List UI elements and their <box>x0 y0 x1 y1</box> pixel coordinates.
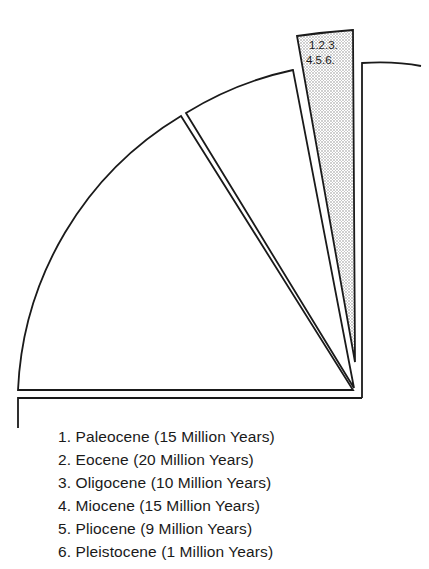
legend-item-oligocene: 3. Oligocene (10 Million Years) <box>58 471 275 494</box>
shaded-wedge-label-line2: 4.5.6. <box>306 54 335 66</box>
legend-item-miocene: 4. Miocene (15 Million Years) <box>58 494 275 517</box>
shaded-wedge-label-line1: 1.2.3. <box>309 39 338 51</box>
epoch-legend: 1. Paleocene (15 Million Years) 2. Eocen… <box>58 425 275 563</box>
legend-item-pliocene: 5. Pliocene (9 Million Years) <box>58 517 275 540</box>
legend-item-pleistocene: 6. Pleistocene (1 Million Years) <box>58 540 275 563</box>
legend-item-paleocene: 1. Paleocene (15 Million Years) <box>58 425 275 448</box>
outer-frame-bottom <box>18 398 362 428</box>
outer-frame-right <box>362 62 421 398</box>
legend-item-eocene: 2. Eocene (20 Million Years) <box>58 448 275 471</box>
